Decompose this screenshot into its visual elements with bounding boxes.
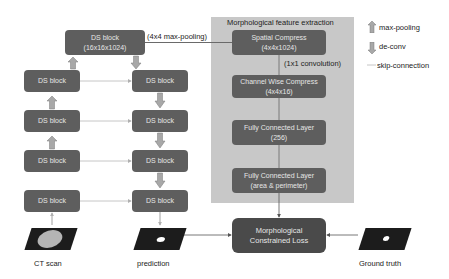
ct-organ [35, 230, 65, 248]
de-conv-arrows [131, 56, 165, 188]
ground-truth-label: Ground truth [359, 259, 401, 268]
block-size: (area & perimeter) [251, 181, 308, 191]
block-size: (4x4x1024) [261, 43, 296, 53]
conv-label: (1x1 convolution) [284, 59, 341, 68]
down-arrow-icon [368, 42, 376, 54]
ct-scan-image [24, 228, 77, 250]
prediction-mask [156, 237, 166, 242]
block-title: Channel Wise Compress [240, 77, 317, 87]
block-title: Spatial Compress [251, 33, 306, 43]
block-size: (256) [271, 133, 287, 143]
legend-de-conv: de-conv [379, 42, 406, 51]
legend-max-pooling: max-pooling [379, 23, 420, 32]
ground-truth-image [358, 228, 411, 250]
block-title: Fully Connected Layer [244, 123, 314, 133]
fc-layer-256-block: Fully Connected Layer (256) [232, 120, 326, 145]
legend: max-pooling de-conv skip-connection [367, 20, 449, 80]
fc-layer-area-perimeter-block: Fully Connected Layer (area & perimeter) [232, 168, 326, 193]
max-pooling-arrows [47, 57, 78, 149]
block-size: (4x4x16) [265, 87, 292, 97]
ground-truth-mask [382, 236, 390, 241]
morph-loss-block: Morphological Constrained Loss [232, 218, 326, 253]
block-title: Fully Connected Layer [244, 171, 314, 181]
prediction-image [133, 228, 186, 250]
skip-arrow-icon [367, 63, 377, 67]
prediction-label: prediction [137, 259, 170, 268]
block-title: Morphological [256, 226, 303, 236]
block-title-2: Constrained Loss [250, 236, 308, 246]
ct-scan-label: CT scan [34, 259, 62, 268]
up-arrow-icon [368, 21, 376, 33]
skip-connection-arrows [80, 81, 131, 201]
spatial-compress-block: Spatial Compress (4x4x1024) [232, 30, 326, 55]
channel-compress-block: Channel Wise Compress (4x4x16) [232, 75, 326, 98]
legend-skip-connection: skip-connection [377, 61, 429, 70]
